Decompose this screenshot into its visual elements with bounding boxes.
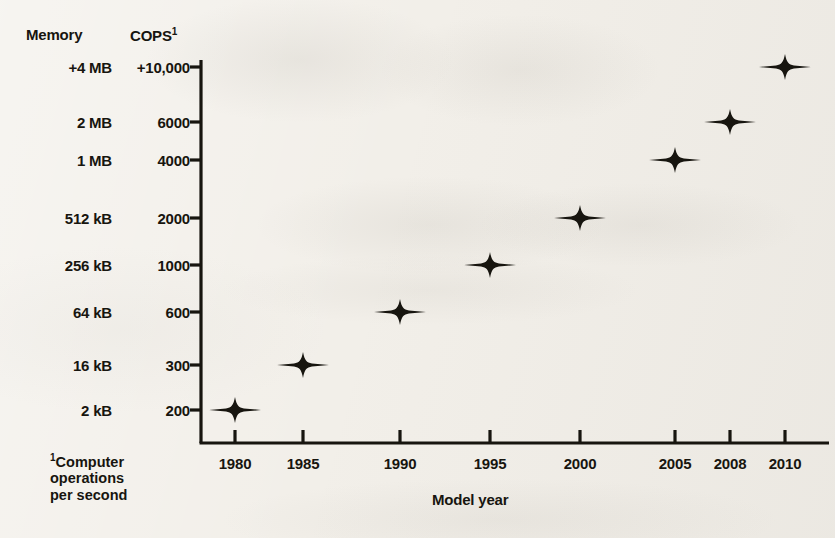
data-point-marker <box>209 397 261 423</box>
x-axis-ticks <box>235 430 785 443</box>
data-point-marker <box>554 205 606 231</box>
data-point-marker <box>759 54 811 80</box>
footnote-computer-operations-per-second: 1Computeroperationsper second <box>50 452 127 503</box>
data-point-marker <box>464 252 516 278</box>
data-point-marker <box>704 109 756 135</box>
footnote-line-3: per second <box>50 487 127 504</box>
data-point-marker <box>374 299 426 325</box>
footnote-line-2: operations <box>50 470 127 487</box>
data-point-marker <box>649 147 701 173</box>
data-point-markers <box>209 54 811 423</box>
x-axis-title: Model year <box>432 491 508 508</box>
footnote-text-1: Computer <box>56 454 124 470</box>
footnote-line-1: 1Computer <box>50 452 127 470</box>
y-axis-ticks <box>190 67 201 410</box>
computer-capability-scatter-chart: Memory COPS1 +4 MB+10,0002 MB60001 MB400… <box>0 0 835 538</box>
data-point-marker <box>277 352 329 378</box>
